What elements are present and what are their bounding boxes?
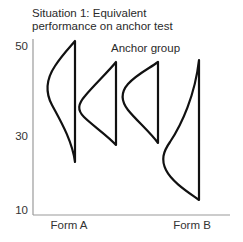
anchor-group-distribution-1 [79, 62, 116, 145]
x-label-form-a: Form A [50, 219, 87, 231]
form-b-distribution [163, 60, 199, 200]
anchor-group-distribution-2 [123, 62, 158, 143]
x-label-form-b: Form B [173, 219, 211, 231]
plot-area [0, 0, 243, 242]
form-a-distribution [48, 41, 75, 162]
